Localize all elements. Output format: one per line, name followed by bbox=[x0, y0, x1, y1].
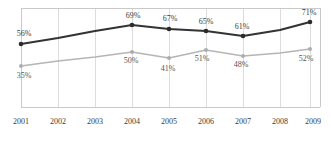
data-point-marker bbox=[130, 50, 134, 54]
series-dark-markers bbox=[19, 20, 313, 47]
x-axis-tick-label: 2006 bbox=[198, 117, 214, 126]
data-point-label: 61% bbox=[235, 22, 250, 31]
data-point-marker bbox=[308, 20, 313, 25]
data-point-label: 69% bbox=[126, 11, 141, 20]
series-dark-path bbox=[21, 22, 310, 44]
data-point-marker bbox=[241, 54, 245, 58]
x-axis-tick-label: 2005 bbox=[161, 117, 177, 126]
x-axis-tick-label: 2007 bbox=[235, 117, 251, 126]
data-point-marker bbox=[19, 64, 23, 68]
data-point-label: 56% bbox=[17, 29, 32, 38]
data-point-label: 71% bbox=[302, 8, 317, 17]
x-axis-tick-label: 2003 bbox=[87, 117, 103, 126]
data-point-label: 51% bbox=[195, 54, 210, 63]
x-axis-tick-label: 2001 bbox=[13, 117, 29, 126]
data-point-marker bbox=[167, 56, 171, 60]
line-chart: 35%50%41%51%48%52% 56%69%67%65%61%71% 20… bbox=[0, 0, 331, 143]
x-axis-tick-label: 2008 bbox=[272, 117, 288, 126]
data-point-label: 52% bbox=[299, 54, 314, 63]
x-axis-tick-labels: 200120022003200420052006200720082009 bbox=[13, 117, 321, 126]
data-point-marker bbox=[308, 47, 312, 51]
data-point-marker bbox=[19, 42, 24, 47]
data-point-label: 41% bbox=[161, 64, 176, 73]
data-point-marker bbox=[167, 27, 172, 32]
x-axis-tick-label: 2009 bbox=[305, 117, 321, 126]
x-axis-tick-label: 2002 bbox=[50, 117, 66, 126]
series-dark-line bbox=[21, 22, 310, 44]
x-axis-tick-label: 2004 bbox=[124, 117, 140, 126]
data-point-marker bbox=[130, 23, 135, 28]
data-point-marker bbox=[204, 29, 209, 34]
chart-plot-area: 35%50%41%51%48%52% 56%69%67%65%61%71% 20… bbox=[0, 0, 331, 143]
data-point-label: 35% bbox=[17, 71, 32, 80]
data-point-marker bbox=[204, 48, 208, 52]
data-point-label: 48% bbox=[234, 60, 249, 69]
data-point-marker bbox=[241, 34, 246, 39]
data-point-label: 50% bbox=[124, 56, 139, 65]
series-dark-value-labels: 56%69%67%65%61%71% bbox=[17, 8, 317, 38]
data-point-label: 67% bbox=[163, 14, 178, 23]
data-point-label: 65% bbox=[199, 17, 214, 26]
